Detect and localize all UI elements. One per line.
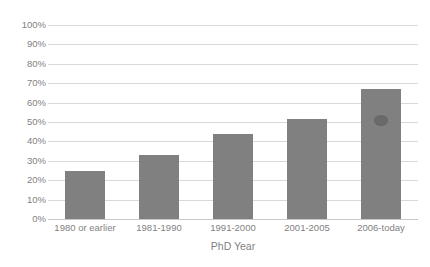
x-axis-tick-label: 1981-1990 — [136, 222, 181, 233]
y-axis-tick-label: 30% — [2, 156, 46, 166]
bar[interactable] — [139, 155, 179, 219]
y-axis-tick-label: 20% — [2, 175, 46, 185]
x-axis-tick-label: 2001-2005 — [284, 222, 329, 233]
y-axis-tick-label: 40% — [2, 137, 46, 147]
x-axis-tick-label: 1991-2000 — [210, 222, 255, 233]
x-axis-tick-label: 1980 or earlier — [54, 222, 115, 233]
x-axis: 1980 or earlier1981-19901991-20002001-20… — [48, 222, 418, 240]
y-axis-tick-label: 0% — [2, 214, 46, 224]
plot-area — [48, 25, 418, 219]
bar-slot — [122, 25, 196, 219]
bar[interactable] — [213, 134, 253, 219]
bar-slot — [196, 25, 270, 219]
bar-chart: 100%90%80%70%60%50%40%30%20%10%0% 1980 o… — [0, 0, 430, 267]
axis-baseline — [48, 219, 418, 220]
bar[interactable] — [65, 171, 105, 220]
bar-slot — [48, 25, 122, 219]
y-axis-tick-label: 90% — [2, 40, 46, 50]
y-axis-tick-label: 80% — [2, 59, 46, 69]
bar-slot — [270, 25, 344, 219]
y-axis-tick-label: 100% — [2, 20, 46, 30]
bar[interactable] — [287, 119, 327, 219]
x-axis-tick-label: 2006-today — [357, 222, 405, 233]
y-axis-tick-label: 60% — [2, 98, 46, 108]
y-axis-tick-label: 50% — [2, 117, 46, 127]
bar-slot — [344, 25, 418, 219]
y-axis: 100%90%80%70%60%50%40%30%20%10%0% — [0, 0, 46, 267]
x-axis-title: PhD Year — [48, 240, 418, 253]
bar[interactable] — [361, 89, 401, 219]
y-axis-tick-label: 10% — [2, 195, 46, 205]
y-axis-tick-label: 70% — [2, 78, 46, 88]
